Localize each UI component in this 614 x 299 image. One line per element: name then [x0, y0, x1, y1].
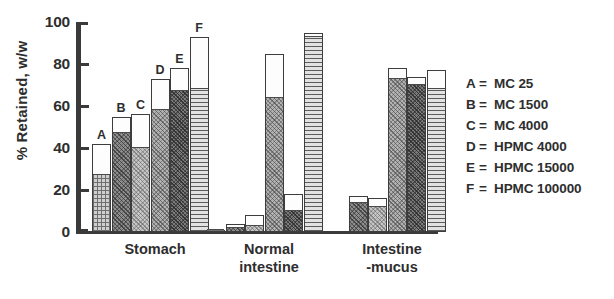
x-category-label-0: Stomach	[100, 240, 210, 258]
y-tick-label-80: 80	[28, 55, 70, 73]
bar-c-1	[245, 215, 264, 232]
bar-e-0	[170, 68, 189, 232]
y-tick-label-60: 60	[28, 97, 70, 115]
legend-key-c: C	[466, 118, 479, 133]
bar-fill-a-0	[93, 174, 110, 231]
y-tick-label-20: 20	[28, 181, 70, 199]
bar-fill-e-1	[285, 210, 302, 231]
y-axis-tick-labels: 100806040200	[28, 14, 70, 240]
bar-fill-d-0	[152, 109, 169, 231]
bar-fill-d-2	[389, 78, 406, 231]
bar-c-2	[368, 198, 387, 232]
bar-fill-e-0	[171, 90, 188, 231]
bar-fill-f-1	[305, 36, 322, 231]
plot-area: ABCDEF	[86, 22, 438, 232]
bar-fill-d-1	[266, 97, 283, 231]
y-tick-label-100: 100	[28, 13, 70, 31]
legend-equals-d: =	[479, 139, 494, 154]
y-axis-title: % Retained, w/w	[13, 16, 30, 186]
bar-c-0	[131, 114, 150, 232]
bar-label-d: D	[151, 63, 170, 77]
legend-row-a: A=MC 25	[466, 76, 614, 97]
bar-d-1	[265, 54, 284, 233]
bar-fill-b-1	[227, 227, 244, 231]
bar-f-2	[427, 70, 446, 232]
bar-b-1	[226, 224, 245, 232]
bar-fill-a-1	[207, 229, 224, 231]
bar-fill-c-0	[132, 147, 149, 231]
bar-e-2	[407, 77, 426, 232]
bar-b-0	[112, 117, 131, 233]
bar-b-2	[349, 196, 368, 232]
bar-fill-c-1	[246, 225, 263, 231]
bar-group-intestine-mucus	[329, 22, 446, 232]
legend-value-c: MC 4000	[494, 118, 548, 133]
bar-a-0	[92, 144, 111, 232]
legend-row-c: C=MC 4000	[466, 118, 614, 139]
legend-key-d: D	[466, 139, 479, 154]
legend-row-f: F=HPMC 100000	[466, 181, 614, 202]
legend-equals-f: =	[479, 181, 494, 196]
legend-key-f: F	[466, 181, 479, 196]
bar-a-1	[206, 230, 225, 232]
legend-row-b: B=MC 1500	[466, 97, 614, 118]
legend-value-e: HPMC 15000	[494, 160, 574, 175]
legend-value-f: HPMC 100000	[494, 181, 581, 196]
y-axis-tick-40	[81, 147, 89, 150]
bar-fill-f-0	[191, 88, 208, 231]
y-axis-tick-20	[81, 189, 89, 192]
legend-equals-c: =	[479, 118, 494, 133]
bar-fill-f-2	[428, 88, 445, 231]
bar-fill-e-2	[408, 84, 425, 231]
bar-group-stomach: ABCDEF	[92, 22, 209, 232]
x-category-label-2: Intestine -mucus	[337, 240, 447, 276]
legend-key-e: E	[466, 160, 479, 175]
y-axis-tick-80	[81, 63, 89, 66]
legend-equals-a: =	[479, 76, 494, 91]
y-tick-label-0: 0	[28, 223, 70, 241]
chart-figure: % Retained, w/w 100806040200 ABCDEF Stom…	[0, 0, 614, 299]
legend-equals-b: =	[479, 97, 494, 112]
bar-group-normal-intestine	[206, 22, 323, 232]
y-axis-tick-60	[81, 105, 89, 108]
bar-label-c: C	[131, 98, 150, 112]
legend-row-e: E=HPMC 15000	[466, 160, 614, 181]
legend-key-b: B	[466, 97, 479, 112]
bar-label-b: B	[112, 101, 131, 115]
legend-value-d: HPMC 4000	[494, 139, 567, 154]
legend-value-b: MC 1500	[494, 97, 548, 112]
y-axis-line	[76, 22, 81, 232]
legend: A=MC 25B=MC 1500C=MC 4000D=HPMC 4000E=HP…	[466, 76, 614, 202]
bar-label-a: A	[92, 128, 111, 142]
bar-d-0	[151, 79, 170, 232]
bar-fill-b-0	[113, 132, 130, 231]
legend-row-d: D=HPMC 4000	[466, 139, 614, 160]
legend-key-a: A	[466, 76, 479, 91]
bar-d-2	[388, 68, 407, 232]
bar-fill-c-2	[369, 206, 386, 231]
bar-fill-b-2	[350, 202, 367, 231]
bar-e-1	[284, 194, 303, 232]
legend-equals-e: =	[479, 160, 494, 175]
x-category-label-1: Normal intestine	[214, 240, 324, 276]
y-tick-label-40: 40	[28, 139, 70, 157]
legend-value-a: MC 25	[494, 76, 533, 91]
bar-f-1	[304, 33, 323, 233]
bar-label-e: E	[170, 52, 189, 66]
